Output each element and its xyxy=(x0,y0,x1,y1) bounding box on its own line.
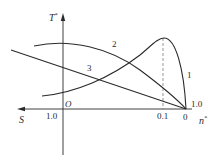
s-axis-label: S xyxy=(19,115,24,125)
s-one-tick-label: 1.0 xyxy=(46,112,57,121)
y-axis-arrow-icon xyxy=(61,13,65,21)
s-axis-arrow-icon xyxy=(17,107,25,111)
n-zero-tick-label: 0 xyxy=(183,113,188,122)
curve-3 xyxy=(11,50,186,109)
curve-3-label: 3 xyxy=(87,64,92,73)
diagram-canvas xyxy=(0,0,217,163)
turbine-characteristic-diagram: T* S n* O 1.0 0.1 0 1.0 1 2 3 xyxy=(0,0,217,163)
y-axis xyxy=(61,13,65,155)
curve-2-label: 2 xyxy=(112,40,117,49)
y-axis-label: T* xyxy=(49,12,58,23)
vertex-one-label: 1.0 xyxy=(191,100,202,109)
origin-label: O xyxy=(65,100,72,109)
n-point-one-tick-label: 0.1 xyxy=(157,112,168,121)
n-axis-label: n* xyxy=(199,115,207,126)
curve-1-label: 1 xyxy=(187,71,192,80)
